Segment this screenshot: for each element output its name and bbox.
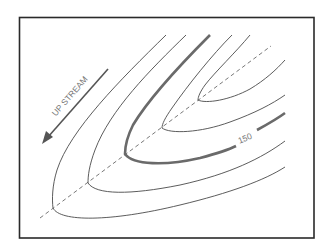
upstream-arrow: [42, 69, 108, 144]
index-contour-150-end: [257, 113, 285, 130]
stream-axis-dashed-line: [40, 46, 271, 218]
contour-line-5: [198, 35, 285, 102]
contour-value-label: 150: [236, 131, 253, 146]
contour-line-1: [52, 35, 285, 218]
valley-contour-diagram: 150 UP STREAM: [0, 0, 329, 251]
index-contour-150: [125, 35, 236, 163]
diagram-frame: [20, 18, 315, 239]
